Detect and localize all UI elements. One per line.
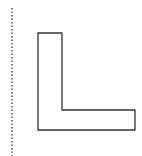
diagram-canvas [0,0,142,156]
l-shape [38,33,135,130]
